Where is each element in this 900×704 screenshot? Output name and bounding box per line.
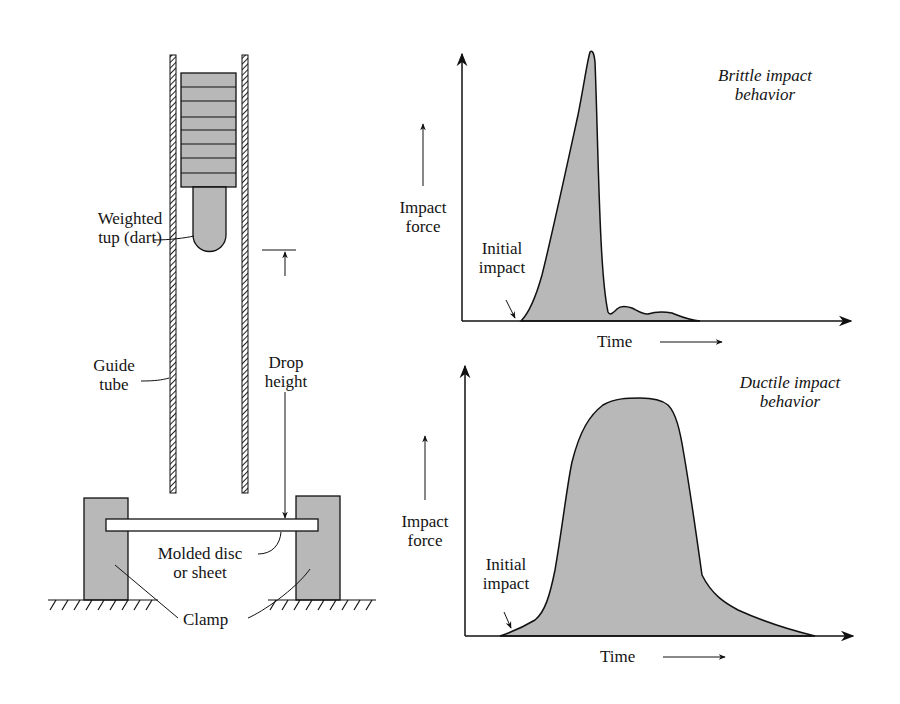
weighted-tup-label-line2: tup (dart) [88, 228, 172, 247]
ductile-xlabel: Time [600, 647, 635, 666]
drop-height-label-line1: Drop [258, 353, 314, 372]
guide-tube-label-line1: Guide [84, 356, 144, 375]
ground-hatching [48, 600, 376, 610]
weight-stack [181, 73, 236, 187]
clamp-label: Clamp [183, 610, 228, 629]
molded-disc-label: Molded disc or sheet [145, 544, 255, 582]
brittle-xlabel: Time [597, 332, 632, 351]
brittle-initial-impact-label: Initial impact [470, 239, 534, 277]
ductile-ylabel-line2: force [388, 531, 462, 550]
ductile-initial-impact-arrow [504, 612, 511, 628]
drop-height-label-line2: height [258, 372, 314, 391]
brittle-title: Brittle impact behavior [700, 66, 830, 104]
brittle-ylabel-line2: force [386, 217, 460, 236]
ductile-initial-impact-label: Initial impact [474, 555, 538, 593]
ductile-title-line1: Ductile impact [725, 373, 855, 392]
dart-tip [193, 187, 226, 252]
brittle-title-line1: Brittle impact [700, 66, 830, 85]
ductile-title: Ductile impact behavior [725, 373, 855, 411]
disc-leader-line [258, 532, 281, 554]
ductile-force-curve [500, 398, 815, 636]
ductile-ylabel-line1: Impact [388, 512, 462, 531]
molded-disc-label-line2: or sheet [145, 563, 255, 582]
brittle-ylabel: Impact force [386, 198, 460, 236]
brittle-force-curve [521, 51, 700, 321]
figure-canvas [0, 0, 900, 704]
brittle-initial-impact-line1: Initial [470, 239, 534, 258]
drop-height-label: Drop height [258, 353, 314, 391]
guide-tube-label-line2: tube [84, 375, 144, 394]
guide-tube-label: Guide tube [84, 356, 144, 394]
ductile-title-line2: behavior [725, 392, 855, 411]
molded-disc [106, 519, 318, 531]
molded-disc-label-line1: Molded disc [145, 544, 255, 563]
guide-leader-line [141, 378, 169, 381]
ductile-initial-impact-line1: Initial [474, 555, 538, 574]
brittle-ylabel-line1: Impact [386, 198, 460, 217]
brittle-initial-impact-arrow [506, 300, 515, 318]
weighted-tup-label: Weighted tup (dart) [88, 209, 172, 247]
ductile-initial-impact-line2: impact [474, 574, 538, 593]
ductile-ylabel: Impact force [388, 512, 462, 550]
weighted-tup-label-line1: Weighted [88, 209, 172, 228]
brittle-initial-impact-line2: impact [470, 258, 534, 277]
brittle-title-line2: behavior [700, 85, 830, 104]
